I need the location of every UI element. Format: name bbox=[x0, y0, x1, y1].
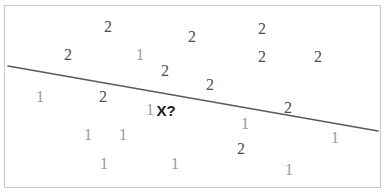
query-point-label: X? bbox=[156, 103, 175, 118]
data-point-class-2: 2 bbox=[258, 49, 266, 65]
data-point-class-2: 2 bbox=[314, 49, 322, 65]
data-point-class-2: 2 bbox=[237, 141, 245, 157]
data-point-class-1: 1 bbox=[241, 116, 249, 132]
data-point-class-2: 2 bbox=[64, 47, 72, 63]
data-point-class-2: 2 bbox=[206, 77, 214, 93]
data-point-class-1: 1 bbox=[331, 130, 339, 146]
data-point-class-2: 2 bbox=[188, 29, 196, 45]
data-point-class-1: 1 bbox=[146, 102, 154, 118]
data-point-class-2: 2 bbox=[284, 100, 292, 116]
data-point-class-1: 1 bbox=[84, 127, 92, 143]
data-point-class-1: 1 bbox=[171, 156, 179, 172]
scatter-plot-figure: 111111111122222222222 X? bbox=[0, 0, 387, 196]
data-point-class-2: 2 bbox=[104, 19, 112, 35]
data-point-class-1: 1 bbox=[285, 162, 293, 178]
data-point-class-2: 2 bbox=[161, 63, 169, 79]
data-point-class-2: 2 bbox=[99, 89, 107, 105]
data-point-class-1: 1 bbox=[136, 47, 144, 63]
data-point-class-2: 2 bbox=[258, 21, 266, 37]
data-point-class-1: 1 bbox=[119, 127, 127, 143]
data-point-class-1: 1 bbox=[100, 156, 108, 172]
data-point-class-1: 1 bbox=[36, 89, 44, 105]
